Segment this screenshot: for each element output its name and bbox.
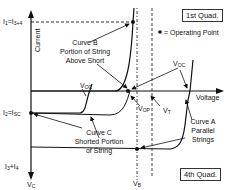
- legend-operating-point: = Operating Point: [164, 29, 219, 36]
- label-vt: VT: [163, 107, 171, 115]
- x-axis-label: Voltage: [196, 94, 219, 101]
- label-i1: I1=I3+4: [3, 18, 22, 26]
- label-voc-right: VOC: [173, 60, 185, 68]
- curve-c-label: Curve CShorted Portionof String: [70, 128, 128, 155]
- label-i2: I2=ISC: [3, 109, 21, 117]
- y-axis-label: Current: [34, 29, 41, 52]
- curve-b-label: Curve BPortion of StringAbove Short: [55, 38, 115, 65]
- quadrant-4-label: 4th Quad.: [180, 168, 221, 181]
- label-vc: VC: [27, 181, 35, 189]
- label-vb: VB: [133, 180, 141, 188]
- curve-a-label: Curve AParallelStrings: [183, 117, 223, 144]
- y-axis-arrow-down-icon: [28, 172, 34, 180]
- label-voc-left: VOC: [80, 82, 92, 90]
- label-vop: VOP: [138, 105, 150, 113]
- y-axis-arrow-up-icon: [28, 10, 34, 18]
- quadrant-1-label: 1st Quad.: [182, 9, 223, 22]
- label-i3: I3+I4: [5, 163, 19, 171]
